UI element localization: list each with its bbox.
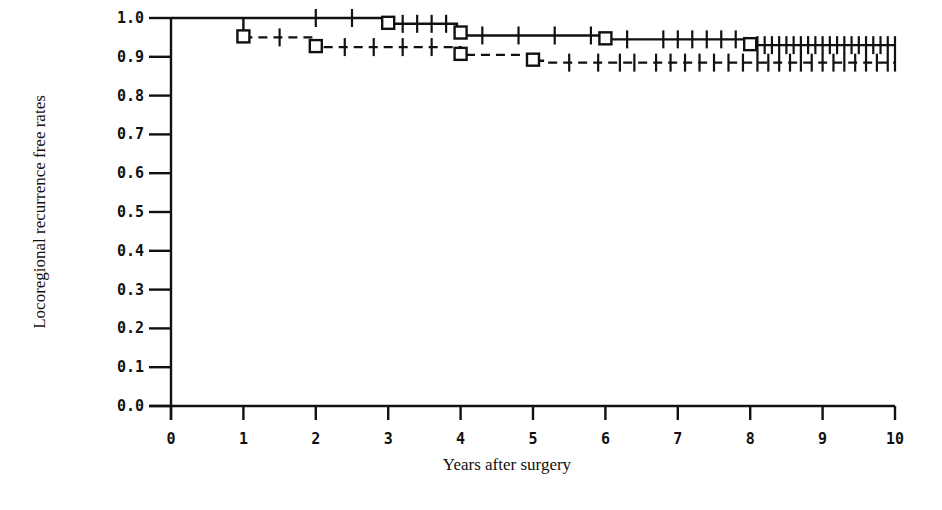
x-tick-label: 2 bbox=[311, 430, 320, 448]
x-tick-label: 6 bbox=[601, 430, 610, 448]
x-axis-title: Years after surgery bbox=[443, 455, 572, 474]
x-tick-label: 5 bbox=[528, 430, 537, 448]
y-tick-label: 1.0 bbox=[117, 9, 144, 27]
y-axis-ticks: 0.00.10.20.30.40.50.60.70.80.91.0 bbox=[117, 9, 171, 415]
y-tick-label: 0.1 bbox=[117, 358, 144, 376]
event-square-marker bbox=[455, 48, 467, 60]
y-tick-label: 0.9 bbox=[117, 48, 144, 66]
y-tick-label: 0.6 bbox=[117, 164, 144, 182]
y-tick-label: 0.5 bbox=[117, 203, 144, 221]
x-tick-label: 9 bbox=[818, 430, 827, 448]
axes bbox=[149, 18, 895, 420]
event-square-marker bbox=[310, 40, 322, 52]
event-square-marker bbox=[237, 30, 249, 42]
y-tick-label: 0.0 bbox=[117, 397, 144, 415]
y-tick-label: 0.7 bbox=[117, 125, 144, 143]
event-square-marker bbox=[527, 54, 539, 66]
x-tick-label: 7 bbox=[673, 430, 682, 448]
series-layer bbox=[171, 9, 895, 72]
kaplan-meier-chart: 0.00.10.20.30.40.50.60.70.80.91.0 012345… bbox=[0, 0, 942, 510]
y-tick-label: 0.3 bbox=[117, 281, 144, 299]
x-tick-label: 4 bbox=[456, 430, 465, 448]
x-tick-label: 3 bbox=[384, 430, 393, 448]
event-square-marker bbox=[382, 17, 394, 29]
y-tick-label: 0.2 bbox=[117, 319, 144, 337]
y-axis-title: Locoregional recurrence free rates bbox=[30, 95, 49, 329]
event-square-marker bbox=[744, 38, 756, 50]
x-tick-label: 1 bbox=[239, 430, 248, 448]
x-tick-label: 10 bbox=[886, 430, 904, 448]
event-square-marker bbox=[599, 32, 611, 44]
y-tick-label: 0.4 bbox=[117, 242, 144, 260]
x-axis-ticks: 012345678910 bbox=[166, 406, 904, 448]
event-square-marker bbox=[455, 27, 467, 39]
y-tick-label: 0.8 bbox=[117, 87, 144, 105]
x-tick-label: 8 bbox=[746, 430, 755, 448]
x-tick-label: 0 bbox=[166, 430, 175, 448]
